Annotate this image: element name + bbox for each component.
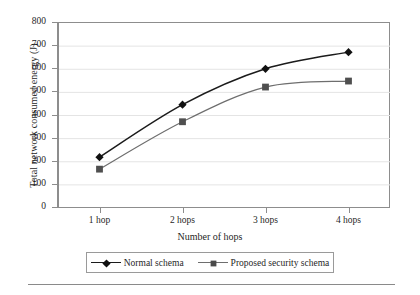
y-axis-tick-label: 600 xyxy=(6,63,46,73)
legend-entry-normal-schema: Normal schema xyxy=(91,258,184,268)
diamond-marker-icon xyxy=(95,153,103,161)
square-marker-icon xyxy=(209,259,218,268)
series-line xyxy=(100,52,349,157)
x-axis-tick-label: 2 hops xyxy=(153,215,213,226)
square-marker-icon xyxy=(345,78,352,85)
y-axis-tick-label: 400 xyxy=(6,110,46,120)
series-normal-schema xyxy=(95,48,352,161)
x-axis-tick xyxy=(266,208,267,213)
x-axis-tick-label: 4 hops xyxy=(319,215,379,226)
y-axis-tick-label: 100 xyxy=(6,179,46,189)
legend-entry-proposed-security-schema: Proposed security schema xyxy=(198,258,330,268)
y-axis-tick-label: 0 xyxy=(6,202,46,212)
y-axis-tick-label: 500 xyxy=(6,86,46,96)
diamond-marker-icon xyxy=(102,259,111,268)
plot-canvas xyxy=(58,23,390,208)
x-axis-tick xyxy=(349,208,350,213)
figure-chart-total-network-consumed-energy: Total network consumed energy (J) 800700… xyxy=(0,0,420,295)
y-axis-tick xyxy=(52,184,58,185)
series-group xyxy=(95,48,352,173)
y-axis-tick xyxy=(52,115,58,116)
y-axis-tick xyxy=(52,91,58,92)
y-axis-tick xyxy=(52,22,58,23)
y-axis-tick xyxy=(52,68,58,69)
x-axis-spine xyxy=(57,207,390,208)
square-marker-icon xyxy=(179,118,186,125)
y-axis-tick xyxy=(52,138,58,139)
x-axis-tick-label: 1 hop xyxy=(70,215,130,226)
y-axis-tick-label: 200 xyxy=(6,156,46,166)
diamond-marker-icon xyxy=(178,101,186,109)
legend-label-proposed-security-schema: Proposed security schema xyxy=(231,258,330,268)
plot-area xyxy=(58,22,390,207)
y-axis-tick-label: 300 xyxy=(6,133,46,143)
y-axis-tick-label: 800 xyxy=(6,17,46,27)
legend-line-normal-schema xyxy=(91,258,121,268)
y-axis-tick-label: 700 xyxy=(6,40,46,50)
x-axis-tick xyxy=(183,208,184,213)
square-marker-icon xyxy=(96,166,103,173)
x-axis-tick xyxy=(100,208,101,213)
legend-label-normal-schema: Normal schema xyxy=(124,258,184,268)
legend-line-proposed-security-schema xyxy=(198,258,228,268)
chart-legend: Normal schema Proposed security schema xyxy=(86,252,334,273)
diamond-marker-icon xyxy=(344,48,352,56)
footer-rule xyxy=(28,284,395,285)
y-axis-tick xyxy=(52,45,58,46)
square-marker-icon xyxy=(262,84,269,91)
diamond-marker-icon xyxy=(261,65,269,73)
series-line xyxy=(100,81,349,169)
x-axis-tick-label: 3 hops xyxy=(236,215,296,226)
y-axis-tick xyxy=(52,161,58,162)
x-axis-title: Number of hops xyxy=(0,231,420,242)
